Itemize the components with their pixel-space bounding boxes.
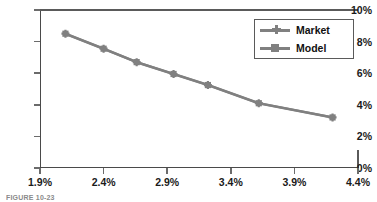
data-point-marker — [62, 31, 68, 37]
data-point-marker — [170, 71, 176, 77]
legend: Market Model — [254, 19, 354, 59]
data-point-marker — [101, 46, 107, 52]
data-point-marker — [134, 59, 140, 65]
legend-entry-model: Model — [260, 39, 352, 57]
square-marker-icon — [271, 44, 279, 52]
cross-marker-icon — [272, 25, 281, 34]
legend-label-market: Market — [296, 23, 330, 37]
data-point-marker — [329, 114, 335, 120]
data-point-marker — [205, 82, 211, 88]
legend-entry-market: Market — [260, 21, 352, 39]
figure-caption: FIGURE 10-23 — [6, 193, 206, 202]
legend-label-model: Model — [296, 41, 326, 55]
data-point-marker — [256, 100, 262, 106]
